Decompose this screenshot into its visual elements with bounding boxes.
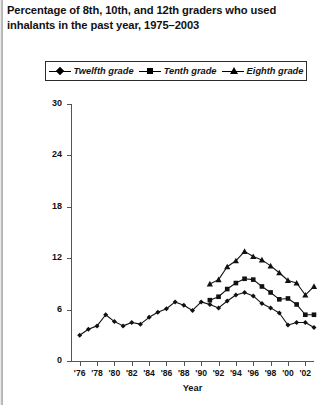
square-marker-icon	[277, 297, 282, 302]
diamond-marker-icon	[207, 302, 212, 307]
square-marker-icon	[268, 290, 273, 295]
square-marker-icon	[234, 281, 239, 286]
triangle-marker-icon	[207, 281, 213, 287]
diamond-marker-icon	[181, 303, 186, 308]
series-tenth-grade	[208, 276, 317, 317]
diamond-marker-icon	[303, 320, 308, 325]
chart-page: Percentage of 8th, 10th, and 12th grader…	[0, 0, 320, 405]
square-marker-icon	[216, 294, 221, 299]
diamond-marker-icon	[268, 305, 273, 310]
diamond-marker-icon	[294, 320, 299, 325]
square-marker-icon	[260, 284, 265, 289]
square-marker-icon	[251, 277, 256, 282]
plot-area: 0612182430 '76'78'80'82'84'86'88'90'92'9…	[0, 0, 320, 405]
series-layer	[0, 0, 320, 405]
square-marker-icon	[294, 302, 299, 307]
triangle-marker-icon	[250, 253, 256, 259]
triangle-marker-icon	[241, 248, 247, 254]
triangle-marker-icon	[224, 264, 230, 270]
diamond-marker-icon	[312, 325, 317, 330]
square-marker-icon	[208, 298, 213, 303]
square-marker-icon	[242, 276, 247, 281]
diamond-marker-icon	[242, 290, 247, 295]
triangle-marker-icon	[268, 263, 274, 269]
square-marker-icon	[312, 312, 317, 317]
x-axis-title: Year	[71, 383, 314, 393]
diamond-marker-icon	[129, 320, 134, 325]
diamond-marker-icon	[155, 310, 160, 315]
square-marker-icon	[286, 296, 291, 301]
series-eighth-grade	[207, 248, 317, 297]
square-marker-icon	[303, 312, 308, 317]
diamond-marker-icon	[121, 323, 126, 328]
triangle-marker-icon	[311, 283, 317, 289]
square-marker-icon	[225, 287, 230, 292]
